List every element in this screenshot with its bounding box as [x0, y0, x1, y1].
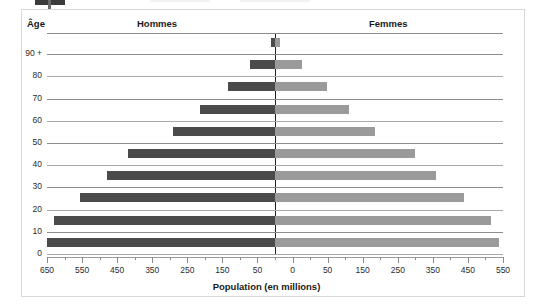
gridline	[47, 121, 503, 122]
x-tick-minor	[100, 257, 101, 260]
bar-femmes	[275, 171, 436, 180]
age-tick-label: 30	[2, 181, 42, 191]
gridline	[47, 54, 503, 55]
x-tick-minor	[450, 257, 451, 260]
cropped-icon-stem	[48, 0, 51, 9]
bar-femmes	[275, 238, 499, 247]
x-tick-minor	[485, 257, 486, 260]
x-tick-label: 350	[132, 265, 172, 275]
x-tick-major	[433, 257, 434, 263]
bar-femmes	[275, 105, 349, 114]
x-tick-major	[363, 257, 364, 263]
gridline	[47, 254, 503, 255]
x-tick-minor	[415, 257, 416, 260]
x-tick-minor	[240, 257, 241, 260]
x-tick-major	[468, 257, 469, 263]
x-tick-major	[293, 257, 294, 263]
gridline	[47, 76, 503, 77]
x-tick-minor	[345, 257, 346, 260]
cropped-title-fragment-2	[240, 0, 310, 2]
x-tick-label: 350	[413, 265, 453, 275]
cropped-title-fragment-1	[150, 0, 210, 2]
gridline	[47, 187, 503, 188]
bar-hommes	[173, 127, 275, 136]
x-tick-major	[187, 257, 188, 263]
bar-hommes	[128, 149, 275, 158]
bar-femmes	[275, 127, 375, 136]
x-tick-minor	[135, 257, 136, 260]
legend-label-hommes: Hommes	[137, 18, 177, 29]
age-tick-label: 80	[2, 70, 42, 80]
x-tick-minor	[380, 257, 381, 260]
gridline	[47, 210, 503, 211]
bar-hommes	[250, 60, 275, 69]
x-tick-major	[257, 257, 258, 263]
x-tick-label: 450	[448, 265, 488, 275]
age-tick-label: 90 +	[2, 48, 42, 58]
x-tick-label: 250	[167, 265, 207, 275]
x-tick-minor	[170, 257, 171, 260]
x-tick-label: 550	[62, 265, 102, 275]
bar-femmes	[275, 149, 415, 158]
x-tick-label: 150	[202, 265, 242, 275]
gridline	[47, 143, 503, 144]
x-tick-label: 150	[343, 265, 383, 275]
x-tick-label: 0	[273, 265, 313, 275]
x-tick-major	[47, 257, 48, 263]
bar-hommes	[54, 216, 275, 225]
bar-femmes	[275, 193, 464, 202]
x-tick-label: 550	[483, 265, 523, 275]
age-tick-label: 20	[2, 204, 42, 214]
bar-femmes	[275, 60, 302, 69]
gridline-top	[47, 33, 503, 34]
x-tick-minor	[275, 257, 276, 260]
x-tick-label: 450	[97, 265, 137, 275]
bar-femmes	[275, 38, 280, 47]
cropped-top-element	[0, 0, 533, 9]
age-tick-label: 50	[2, 137, 42, 147]
x-tick-minor	[65, 257, 66, 260]
bar-hommes	[80, 193, 275, 202]
x-tick-major	[222, 257, 223, 263]
bar-hommes	[47, 238, 275, 247]
x-tick-major	[328, 257, 329, 263]
x-axis-title: Population (en millions)	[0, 281, 533, 292]
x-tick-major	[152, 257, 153, 263]
bar-femmes	[275, 216, 491, 225]
x-tick-minor	[205, 257, 206, 260]
legend-label-femmes: Femmes	[369, 18, 408, 29]
age-tick-label: 70	[2, 93, 42, 103]
gridline	[47, 165, 503, 166]
x-tick-label: 50	[237, 265, 277, 275]
x-tick-minor	[310, 257, 311, 260]
x-tick-major	[503, 257, 504, 263]
x-tick-label: 650	[27, 265, 67, 275]
gridline	[47, 99, 503, 100]
x-tick-major	[82, 257, 83, 263]
bar-hommes	[107, 171, 275, 180]
bar-hommes	[200, 105, 275, 114]
bar-femmes	[275, 82, 327, 91]
gridline	[47, 232, 503, 233]
age-tick-label: 40	[2, 159, 42, 169]
age-axis-title: Âge	[27, 18, 45, 29]
x-tick-label: 250	[378, 265, 418, 275]
age-tick-label: 60	[2, 115, 42, 125]
population-pyramid-screenshot: Âge Hommes Femmes 90 +80706050403020100 …	[0, 0, 533, 306]
age-tick-label: 10	[2, 226, 42, 236]
x-tick-major	[398, 257, 399, 263]
plot-area: 90 +80706050403020100	[47, 33, 503, 255]
x-tick-major	[117, 257, 118, 263]
x-tick-label: 50	[308, 265, 348, 275]
bar-hommes	[228, 82, 275, 91]
age-tick-label: 0	[2, 248, 42, 258]
